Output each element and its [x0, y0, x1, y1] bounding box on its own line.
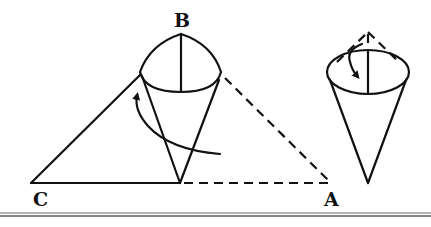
cone-side-right: [180, 80, 219, 183]
finished-cone-side-left: [330, 80, 368, 183]
cone-cap-left: [140, 34, 181, 72]
label-b: B: [174, 9, 190, 31]
cone-folding-diagram: B C A: [0, 0, 431, 227]
finished-cone-side-right: [368, 80, 406, 183]
dashed-tip-left: [337, 32, 368, 62]
dashed-tip-right: [368, 32, 399, 62]
right-figure: [327, 32, 409, 183]
rolling-arrow-icon: [136, 96, 220, 154]
label-c: C: [33, 188, 48, 210]
edge-c-to-cone: [31, 74, 141, 183]
label-a: A: [323, 188, 339, 210]
rolled-cone: [140, 34, 221, 183]
cone-cap-right: [181, 34, 221, 72]
left-figure: B C A: [31, 9, 339, 210]
dashed-edge-cone-to-a: [225, 78, 331, 183]
